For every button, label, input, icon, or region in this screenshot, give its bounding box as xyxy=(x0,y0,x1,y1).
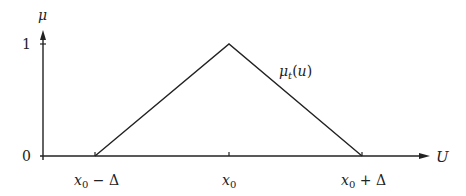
membership-diagram: μ 1 0 U μt(u) x0 − Δ x0 x0 + Δ xyxy=(0,0,466,196)
curve-label: μt(u) xyxy=(279,63,312,81)
y-axis-arrow-icon xyxy=(40,30,46,40)
y-axis-label: μ xyxy=(38,7,47,23)
x-tick-label-left: x0 − Δ xyxy=(74,172,119,190)
x-axis-label: U xyxy=(436,148,450,166)
x-axis-arrow-icon xyxy=(419,153,430,159)
x-tick-label-x0: x0 xyxy=(222,172,236,190)
y-tick-label-0: 0 xyxy=(22,148,31,164)
y-tick-label-1: 1 xyxy=(22,36,31,52)
x-tick-label-right: x0 + Δ xyxy=(341,172,386,190)
membership-curve xyxy=(95,44,362,156)
